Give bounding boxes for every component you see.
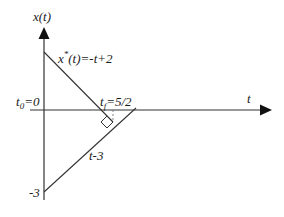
y-axis-label: x(t) (32, 9, 51, 24)
right-angle-marker-icon (101, 116, 113, 128)
x-axis-arrow-icon (260, 105, 272, 116)
t0-label: t0=0 (16, 94, 40, 111)
target-line-label: t-3 (89, 148, 104, 163)
tf-label: tf=5/2 (100, 94, 132, 111)
x-axis-label: t (247, 91, 251, 106)
y-intercept-label: -3 (29, 185, 40, 200)
y-axis-arrow-icon (39, 27, 50, 39)
t0-suffix: =0 (24, 94, 40, 109)
diagram-canvas: x(t) t x*(t)=-t+2 t0=0 tf=5/2 t-3 -3 (0, 0, 284, 217)
optimal-suffix: (t)=-t+2 (68, 51, 113, 66)
tf-suffix: =5/2 (106, 94, 132, 109)
optimal-trajectory-label: x*(t)=-t+2 (57, 49, 113, 66)
